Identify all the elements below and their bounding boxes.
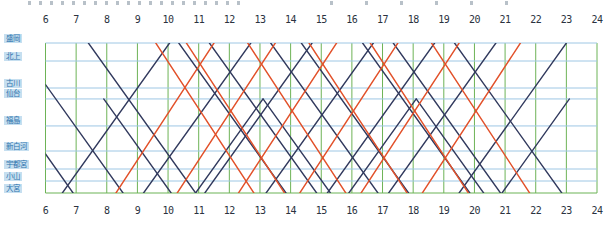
hour-label-bottom: 12 xyxy=(224,204,235,217)
station-label: 大宮 xyxy=(4,184,22,193)
train-line-orange-up xyxy=(300,43,398,193)
hour-label-bottom: 11 xyxy=(193,204,204,217)
train-diagram-page: 6789101112131415161718192021222324 盛岡北上古… xyxy=(0,0,613,229)
station-label: 北上 xyxy=(4,52,22,61)
hour-label-bottom: 23 xyxy=(561,204,572,217)
hour-label-bottom: 10 xyxy=(163,204,174,217)
hour-label-bottom: 8 xyxy=(104,204,110,217)
station-label: 盛岡 xyxy=(4,34,22,43)
hour-label-bottom: 16 xyxy=(346,204,357,217)
hour-label-bottom: 14 xyxy=(285,204,296,217)
hour-label-bottom: 7 xyxy=(73,204,79,217)
station-label: 小山 xyxy=(4,172,22,181)
station-label: 福島 xyxy=(4,116,22,125)
station-label: 新白河 xyxy=(4,142,29,151)
train-line-orange-down xyxy=(156,43,254,193)
hour-label-bottom: 20 xyxy=(469,204,480,217)
train-line-orange-up xyxy=(116,43,214,193)
hour-label-bottom: 18 xyxy=(408,204,419,217)
time-axis-bottom: 6789101112131415161718192021222324 xyxy=(0,204,613,217)
train-line-navy-down xyxy=(46,85,124,193)
train-line-navy-down xyxy=(88,43,195,193)
station-label: 宇都宮 xyxy=(4,160,29,169)
diagram-plot xyxy=(0,0,613,229)
hour-label-bottom: 19 xyxy=(438,204,449,217)
hour-label-bottom: 22 xyxy=(530,204,541,217)
station-label: 仙台 xyxy=(4,89,22,98)
station-label: 古川 xyxy=(4,79,22,88)
hour-label-bottom: 24 xyxy=(591,204,602,217)
train-line-navy-down xyxy=(46,154,74,193)
hour-label-bottom: 9 xyxy=(135,204,141,217)
train-line-navy-down xyxy=(416,99,483,193)
train-lines xyxy=(46,43,570,193)
hour-label-bottom: 15 xyxy=(316,204,327,217)
train-line-navy-up xyxy=(62,43,169,193)
hour-label-bottom: 13 xyxy=(254,204,265,217)
train-line-navy-up xyxy=(459,43,566,193)
hour-label-bottom: 17 xyxy=(377,204,388,217)
hour-label-bottom: 21 xyxy=(500,204,511,217)
hour-label-bottom: 6 xyxy=(43,204,49,217)
